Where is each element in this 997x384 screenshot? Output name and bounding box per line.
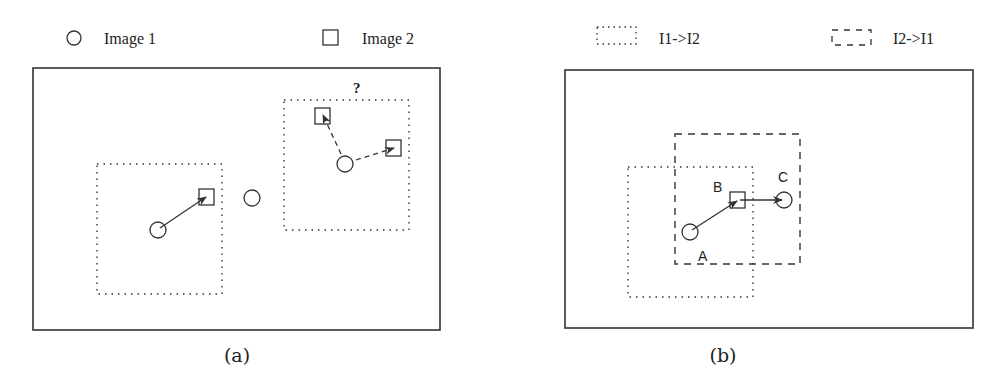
point-image1-unmatched <box>244 190 260 206</box>
figure-canvas: Image 1 Image 2 I1->I2 I2->I1 ? <box>0 0 997 384</box>
candidate-arrow-2 <box>356 148 394 160</box>
window-i2-to-i1 <box>675 134 800 264</box>
point-image1-ambiguous <box>337 156 353 172</box>
arrow-a-to-b <box>692 201 737 230</box>
panel-a-frame <box>33 68 440 330</box>
ambiguity-mark: ? <box>353 80 361 96</box>
label-a: A <box>698 248 708 264</box>
point-image2 <box>199 189 214 205</box>
legend-image1: Image 1 <box>67 30 156 48</box>
legend-image2: Image 2 <box>323 30 414 48</box>
search-window-right <box>284 100 409 230</box>
circle-icon <box>67 31 81 45</box>
label-c: C <box>778 169 788 185</box>
panel-a: ? (a) <box>33 68 440 366</box>
window-i1-to-i2 <box>628 167 753 297</box>
square-icon <box>323 30 338 45</box>
label-b: B <box>713 179 722 195</box>
candidate-arrow-1 <box>323 115 341 154</box>
legend-i1-to-i2-label: I1->I2 <box>659 30 700 47</box>
search-window-left <box>97 164 222 294</box>
dotted-box-icon <box>597 27 636 44</box>
legend-i1-to-i2: I1->I2 <box>597 27 700 47</box>
match-arrow <box>160 197 206 228</box>
panel-b: A B C (b) <box>565 70 973 366</box>
legend-i2-to-i1: I2->I1 <box>832 30 934 47</box>
panel-b-frame <box>565 70 973 328</box>
legend-image1-label: Image 1 <box>104 30 156 48</box>
panel-a-caption: (a) <box>224 344 250 366</box>
dashed-box-icon <box>832 30 871 45</box>
legend-i2-to-i1-label: I2->I1 <box>893 30 934 47</box>
panel-b-caption: (b) <box>710 344 737 366</box>
point-image1 <box>150 222 166 238</box>
legend: Image 1 Image 2 I1->I2 I2->I1 <box>67 27 934 48</box>
point-a <box>682 224 698 240</box>
point-image2-candidate-1 <box>315 108 330 124</box>
legend-image2-label: Image 2 <box>362 30 414 48</box>
